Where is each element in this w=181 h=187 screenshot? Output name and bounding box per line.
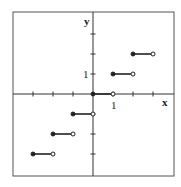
step-segment <box>51 132 75 136</box>
closed-endpoint <box>31 152 35 156</box>
closed-endpoint <box>131 52 135 56</box>
closed-endpoint <box>91 92 95 96</box>
closed-endpoint <box>111 72 115 76</box>
closed-endpoint <box>51 132 55 136</box>
step-segment <box>111 72 135 76</box>
x-axis-label: x <box>162 96 168 108</box>
step-segment <box>31 152 55 156</box>
step-function-plot: y x 1 1 <box>0 0 181 187</box>
step-segment <box>131 52 155 56</box>
x-tick-label-1: 1 <box>111 99 117 111</box>
step-segment <box>71 112 95 116</box>
closed-endpoint <box>71 112 75 116</box>
open-endpoint <box>151 52 155 56</box>
step-segment <box>91 92 115 96</box>
y-tick-label-1: 1 <box>83 68 89 80</box>
open-endpoint <box>71 132 75 136</box>
open-endpoint <box>51 152 55 156</box>
open-endpoint <box>111 92 115 96</box>
open-endpoint <box>91 112 95 116</box>
y-axis-label: y <box>84 15 90 27</box>
open-endpoint <box>131 72 135 76</box>
